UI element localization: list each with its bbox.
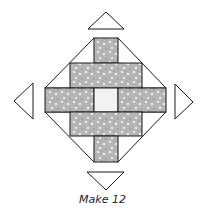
bottom-triangle: [87, 172, 124, 190]
right-triangle: [175, 84, 193, 119]
quilt-block-diagram: [0, 0, 205, 217]
top-triangle: [88, 12, 124, 29]
right-band: [118, 88, 166, 112]
upper-block: [70, 63, 142, 88]
center-square: [94, 88, 118, 112]
left-band: [45, 88, 94, 112]
left-triangle: [14, 83, 33, 119]
bottom-bar: [94, 136, 118, 162]
caption: Make 12: [0, 193, 205, 206]
top-bar: [94, 38, 118, 63]
lower-block: [70, 112, 142, 136]
